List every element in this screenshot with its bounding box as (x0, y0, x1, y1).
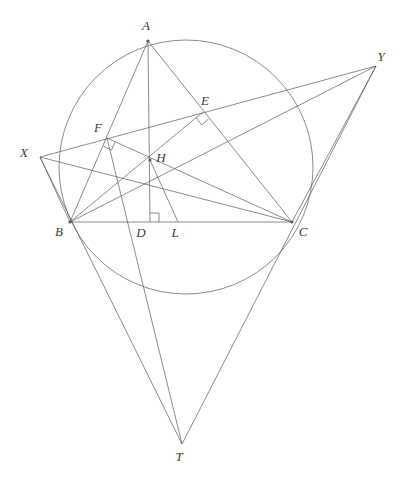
point-label-l: L (170, 225, 178, 240)
altitude-CF (107, 138, 292, 222)
vertex-dot-a (146, 39, 149, 42)
right-angle-at-F (103, 142, 115, 150)
point-label-h: H (155, 150, 166, 165)
point-label-e: E (200, 93, 209, 108)
point-label-a: A (141, 18, 150, 33)
vertex-dot-h (148, 158, 151, 161)
point-label-x: X (19, 145, 29, 160)
circumcircle-group (59, 40, 313, 294)
side-CA (148, 41, 292, 222)
point-label-b: B (55, 224, 63, 239)
point-labels-group: ABCDLEFHXYT (19, 18, 386, 464)
point-label-f: F (93, 120, 103, 135)
altitude-AD (148, 41, 150, 222)
geometry-figure: ABCDLEFHXYT (0, 0, 410, 484)
side-AB (70, 41, 148, 222)
altitude-BE (70, 112, 203, 222)
cevian-BY (70, 66, 376, 222)
point-label-t: T (175, 449, 183, 464)
cevian-CX (40, 157, 292, 222)
right-angle-at-E (196, 118, 208, 125)
circumcircle (59, 40, 313, 294)
segment-XT (40, 157, 182, 444)
right-angle-marks-group (103, 118, 208, 222)
vertex-dot-c (290, 220, 293, 223)
geometry-canvas: ABCDLEFHXYT (0, 0, 410, 484)
point-label-d: D (135, 225, 146, 240)
segment-YT (182, 66, 376, 444)
vertex-dot-b (68, 220, 71, 223)
point-label-y: Y (377, 49, 386, 64)
line-XY (40, 66, 376, 157)
point-label-c: C (299, 224, 308, 239)
segment-CY (292, 66, 376, 222)
vertex-dots-group (68, 39, 293, 223)
right-angle-at-D (150, 213, 159, 222)
